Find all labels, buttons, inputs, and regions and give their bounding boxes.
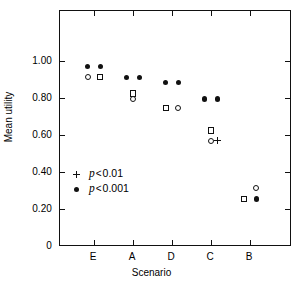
p-symbol: p (89, 182, 95, 194)
data-point-open-square (163, 105, 169, 111)
data-point-filled-circle (163, 80, 168, 85)
x-tick-label-d: D (159, 252, 183, 262)
y-tick-label-040: 0.40 (32, 167, 52, 177)
y-tick-mark (60, 135, 65, 136)
y-tick-label-060: 0.60 (32, 130, 52, 140)
plus-icon (71, 167, 83, 180)
x-tick-label-c: C (198, 252, 222, 262)
legend-threshold: 0.001 (103, 182, 129, 194)
y-tick-mark-right (285, 98, 290, 99)
x-tick-mark-top (133, 11, 134, 16)
y-tick-mark (60, 98, 65, 99)
y-tick-mark-right (285, 61, 290, 62)
x-tick-mark (211, 240, 212, 245)
x-tick-mark-top (250, 11, 251, 16)
y-tick-mark-right (285, 209, 290, 210)
scatter-chart-figure: 1.00 0.80 0.60 0.40 0.20 0 Mean utility (0, 0, 303, 282)
data-point-filled-circle (176, 80, 181, 85)
y-tick-mark (60, 61, 65, 62)
data-point-filled-circle (215, 96, 220, 101)
y-axis-title: Mean utility (4, 72, 14, 162)
y-tick-mark (60, 209, 65, 210)
x-tick-mark-top (172, 11, 173, 16)
y-tick-mark-right (285, 135, 290, 136)
data-point-plus (214, 137, 221, 144)
x-axis-title: Scenario (0, 268, 303, 278)
data-point-open-circle (253, 185, 259, 191)
legend-threshold: 0.01 (103, 167, 123, 179)
p-symbol: p (89, 167, 95, 179)
x-tick-label-a: A (120, 252, 144, 262)
less-than-symbol: < (95, 168, 103, 179)
data-point-filled-circle (202, 96, 207, 101)
y-tick-label-1: 1.00 (32, 56, 52, 66)
data-point-filled-circle (137, 75, 142, 80)
x-tick-mark-top (211, 11, 212, 16)
x-tick-label-e: E (81, 252, 105, 262)
data-point-open-square (208, 127, 214, 133)
x-tick-mark-top (94, 11, 95, 16)
y-tick-label-080: 0.80 (32, 93, 52, 103)
legend-label-p001: p<0.01 (89, 167, 123, 180)
x-tick-mark (172, 240, 173, 245)
data-point-open-square (241, 196, 247, 202)
filled-circle-icon (71, 182, 83, 195)
plot-area: p<0.01 p<0.001 (59, 10, 291, 246)
data-point-filled-circle (124, 75, 129, 80)
y-tick-label-020: 0.20 (32, 204, 52, 214)
x-tick-mark (133, 240, 134, 245)
data-point-filled-circle (98, 64, 103, 69)
data-point-open-square (97, 74, 103, 80)
x-tick-mark (94, 240, 95, 245)
x-tick-mark (250, 240, 251, 245)
data-point-open-circle (175, 105, 181, 111)
y-tick-mark (60, 172, 65, 173)
data-point-open-circle (85, 74, 91, 80)
y-tick-mark-right (285, 172, 290, 173)
x-tick-label-b: B (237, 252, 261, 262)
y-tick-label-0: 0 (46, 241, 52, 251)
legend-label-p0001: p<0.001 (89, 182, 129, 195)
data-point-filled-circle (254, 196, 259, 201)
less-than-symbol: < (95, 183, 103, 194)
data-point-open-circle (130, 96, 136, 102)
data-point-filled-circle (85, 64, 90, 69)
